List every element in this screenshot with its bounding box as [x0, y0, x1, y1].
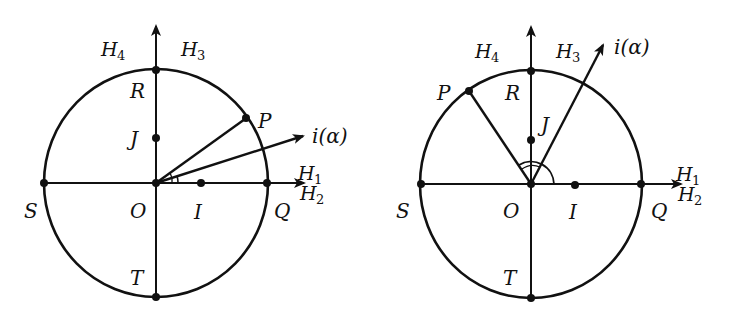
svg-text:H: H	[100, 38, 118, 60]
vector-i-alpha	[156, 136, 303, 183]
angle-arc	[177, 176, 178, 183]
point-J	[527, 136, 535, 144]
segment-OP	[469, 91, 531, 184]
svg-text:2: 2	[316, 192, 324, 207]
label-Q: Q	[274, 199, 290, 223]
label-T: T	[130, 266, 145, 290]
point-P	[242, 114, 250, 122]
label-S: S	[396, 199, 410, 223]
svg-text:4: 4	[491, 50, 499, 65]
svg-text:4: 4	[117, 48, 125, 63]
label-T: T	[503, 266, 518, 290]
label-S: S	[24, 199, 38, 223]
svg-text:H: H	[297, 162, 315, 184]
label-Q: Q	[651, 199, 667, 223]
svg-text:H: H	[677, 183, 695, 205]
point-S	[417, 180, 425, 188]
point-Q	[637, 180, 645, 188]
point-T	[527, 294, 535, 302]
svg-text:H: H	[675, 163, 693, 185]
svg-text:H: H	[180, 38, 198, 60]
point-P	[465, 87, 473, 95]
label-H4: H 4	[100, 38, 125, 63]
svg-text:3: 3	[197, 48, 205, 63]
label-I: I	[193, 200, 203, 224]
label-J: J	[126, 127, 139, 151]
point-R	[527, 67, 535, 75]
point-I	[197, 179, 205, 187]
svg-text:H: H	[555, 40, 573, 62]
diagram-canvas: R J P S O I Q T i(α) H 4 H 3 H 1 H 2	[0, 0, 731, 319]
label-J: J	[537, 113, 550, 137]
label-H3: H 3	[180, 38, 205, 63]
label-R: R	[504, 81, 520, 105]
label-O: O	[130, 199, 146, 223]
svg-text:3: 3	[572, 50, 580, 65]
label-i-alpha: i(α)	[614, 35, 650, 59]
label-O: O	[503, 199, 519, 223]
label-P: P	[436, 81, 451, 105]
segment-OP	[156, 119, 245, 183]
figure-right: R J P S O I Q T i(α) H 4 H 3 H 1 H 2	[396, 27, 702, 302]
point-S	[40, 179, 48, 187]
label-R: R	[129, 79, 145, 103]
label-H3: H 3	[555, 40, 580, 65]
figure-left: R J P S O I Q T i(α) H 4 H 3 H 1 H 2	[24, 26, 348, 301]
point-R	[152, 66, 160, 74]
svg-text:2: 2	[694, 193, 702, 208]
point-O	[152, 179, 160, 187]
point-T	[152, 293, 160, 301]
label-i-alpha: i(α)	[312, 124, 348, 148]
point-Q	[263, 179, 271, 187]
point-I	[571, 181, 579, 189]
svg-text:H: H	[474, 40, 492, 62]
label-H4: H 4	[474, 40, 499, 65]
svg-text:H: H	[299, 182, 317, 204]
point-J	[152, 134, 160, 142]
point-O	[527, 180, 535, 188]
label-I: I	[568, 200, 578, 224]
label-P: P	[257, 109, 272, 133]
